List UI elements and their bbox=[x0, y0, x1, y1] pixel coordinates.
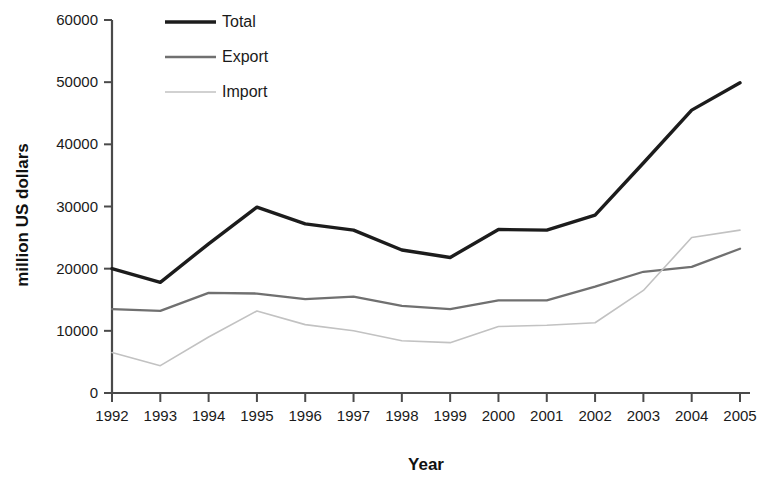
y-axis-ticks: 0100002000030000400005000060000 bbox=[56, 11, 112, 401]
series-line-total bbox=[112, 83, 740, 283]
x-tick-label: 2004 bbox=[675, 407, 708, 424]
y-tick-label: 20000 bbox=[56, 260, 98, 277]
x-tick-label: 1996 bbox=[289, 407, 322, 424]
y-tick-label: 0 bbox=[90, 384, 98, 401]
x-tick-label: 2005 bbox=[723, 407, 756, 424]
y-axis-title: million US dollars bbox=[13, 143, 32, 287]
legend-label-total: Total bbox=[222, 13, 256, 30]
x-tick-label: 2001 bbox=[530, 407, 563, 424]
x-tick-label: 1999 bbox=[433, 407, 466, 424]
y-tick-label: 60000 bbox=[56, 11, 98, 28]
y-tick-label: 10000 bbox=[56, 322, 98, 339]
x-tick-label: 2002 bbox=[578, 407, 611, 424]
x-tick-label: 1998 bbox=[385, 407, 418, 424]
legend-label-import: Import bbox=[222, 83, 268, 100]
line-chart: 0100002000030000400005000060000 19921993… bbox=[0, 0, 758, 479]
y-tick-label: 40000 bbox=[56, 135, 98, 152]
x-tick-label: 2003 bbox=[627, 407, 660, 424]
x-tick-label: 1992 bbox=[95, 407, 128, 424]
series-line-export bbox=[112, 249, 740, 311]
series-line-import bbox=[112, 230, 740, 366]
legend-label-export: Export bbox=[222, 48, 269, 65]
x-tick-label: 2000 bbox=[482, 407, 515, 424]
x-tick-label: 1993 bbox=[144, 407, 177, 424]
chart-canvas: 0100002000030000400005000060000 19921993… bbox=[0, 0, 758, 479]
x-axis-ticks: 1992199319941995199619971998199920002001… bbox=[95, 393, 756, 424]
chart-legend: TotalExportImport bbox=[165, 13, 269, 100]
data-series-group bbox=[112, 83, 740, 366]
x-tick-label: 1997 bbox=[337, 407, 370, 424]
x-tick-label: 1995 bbox=[240, 407, 273, 424]
x-axis-title: Year bbox=[408, 455, 444, 474]
y-tick-label: 50000 bbox=[56, 73, 98, 90]
y-tick-label: 30000 bbox=[56, 198, 98, 215]
x-tick-label: 1994 bbox=[192, 407, 225, 424]
